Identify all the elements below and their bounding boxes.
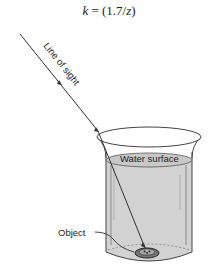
beaker-diagram: Line of sight Water surface Object (0, 0, 218, 274)
label-water-surface: Water surface (120, 153, 179, 164)
object-disc (135, 248, 159, 258)
label-line-of-sight: Line of sight (41, 40, 82, 87)
label-object: Object (58, 227, 86, 238)
beaker (97, 127, 201, 261)
